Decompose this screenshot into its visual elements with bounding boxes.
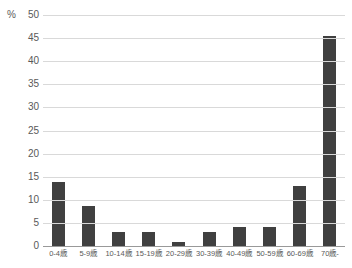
y-tick-label: 15 (0, 171, 39, 183)
x-tick-label: 70歳- (315, 249, 345, 259)
x-tick-label: 20-29歳 (164, 249, 194, 259)
x-axis-line (43, 246, 345, 247)
y-tick-label: 5 (0, 217, 39, 229)
plot-area (43, 15, 345, 246)
y-tick-label: 35 (0, 78, 39, 90)
y-tick-label: 50 (0, 9, 39, 21)
bar-70歳- (323, 36, 336, 246)
gridline (43, 223, 345, 224)
y-tick-label: 30 (0, 101, 39, 113)
gridline (43, 84, 345, 85)
x-tick-label: 10-14歳 (103, 249, 133, 259)
bar-50-59歳 (263, 227, 276, 246)
bar-chart: % 50454035302520151050 0-4歳5-9歳10-14歳15-… (0, 0, 352, 268)
y-tick-label: 45 (0, 32, 39, 44)
bar-60-69歳 (293, 186, 306, 246)
y-axis: 50454035302520151050 (0, 0, 39, 268)
gridline (43, 15, 345, 16)
y-tick-label: 10 (0, 194, 39, 206)
gridline (43, 107, 345, 108)
bar-10-14歳 (112, 232, 125, 246)
gridline (43, 61, 345, 62)
gridline (43, 131, 345, 132)
gridline (43, 200, 345, 201)
x-tick-label: 60-69歳 (285, 249, 315, 259)
x-tick-label: 50-59歳 (254, 249, 284, 259)
x-tick-label: 5-9歳 (73, 249, 103, 259)
bar-0-4歳 (52, 182, 65, 246)
x-axis: 0-4歳5-9歳10-14歳15-19歳20-29歳30-39歳40-49歳50… (43, 249, 345, 259)
gridline (43, 177, 345, 178)
x-tick-label: 40-49歳 (224, 249, 254, 259)
x-tick-label: 30-39歳 (194, 249, 224, 259)
gridline (43, 154, 345, 155)
bar-30-39歳 (203, 232, 216, 246)
y-tick-label: 0 (0, 240, 39, 252)
y-tick-label: 40 (0, 55, 39, 67)
bar-40-49歳 (233, 227, 246, 246)
y-tick-label: 20 (0, 148, 39, 160)
bar-15-19歳 (142, 232, 155, 246)
gridline (43, 38, 345, 39)
x-tick-label: 0-4歳 (43, 249, 73, 259)
x-tick-label: 15-19歳 (134, 249, 164, 259)
bar-5-9歳 (82, 206, 95, 246)
y-tick-label: 25 (0, 125, 39, 137)
